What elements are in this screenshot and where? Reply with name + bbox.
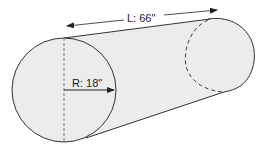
radius-label: R: 18" [72, 77, 102, 89]
cylinder-diagram: R: 18" L: 66" [0, 0, 270, 154]
length-label: L: 66" [127, 12, 155, 24]
length-arrow-right [164, 10, 217, 15]
length-arrow-left [67, 20, 124, 26]
